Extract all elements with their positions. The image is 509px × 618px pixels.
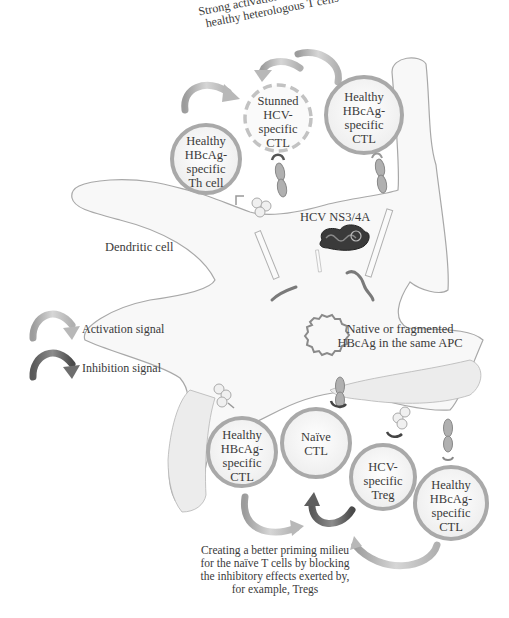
activation-arrow-top-left [185,84,240,110]
receptor-healthy-ctl-bottom-right [443,419,453,460]
label-stunned-hcv-ctl: Stunned HCV- specific CTL [243,94,313,150]
label-healthy-ctl-bottom-left: Healthy HBcAg- specific CTL [207,428,277,484]
hcv-ns3-4a-antigen [320,225,369,250]
activation-arrow-top-right [298,53,338,82]
legend-inhibition-label: Inhibition signal [82,362,161,375]
label-healthy-ctl-top: Healthy HBcAg- specific CTL [329,90,399,146]
label-naive-ctl: Naïve CTL [281,430,351,458]
activation-arrow-top-center [254,62,300,82]
receptor-healthy-ctl-top [372,154,388,194]
inhibition-arrow-bottom-center [304,492,352,523]
antigen-label: HCV NS3/4A [300,210,370,224]
activation-arrow-bottom-right [350,536,437,566]
label-hcv-treg: HCV- specific Treg [348,460,418,502]
legend-inhibition-arrow [33,353,80,379]
hbcag-label: Native or fragmented HBcAg in the same A… [335,322,465,350]
receptor-stunned [272,155,288,198]
legend-activation-arrow [33,314,80,340]
label-th-top: Healthy HBcAg- specific Th cell [171,134,241,190]
receptor-treg [387,407,410,437]
label-healthy-ctl-bottom-right: Healthy HBcAg- specific CTL [416,478,486,534]
legend-activation-label: Activation signal [82,323,164,336]
dendritic-cell-label: Dendritic cell [105,240,173,254]
bottom-annotation: Creating a better priming milieu for the… [200,544,350,596]
activation-arrow-bottom-left [244,497,304,536]
